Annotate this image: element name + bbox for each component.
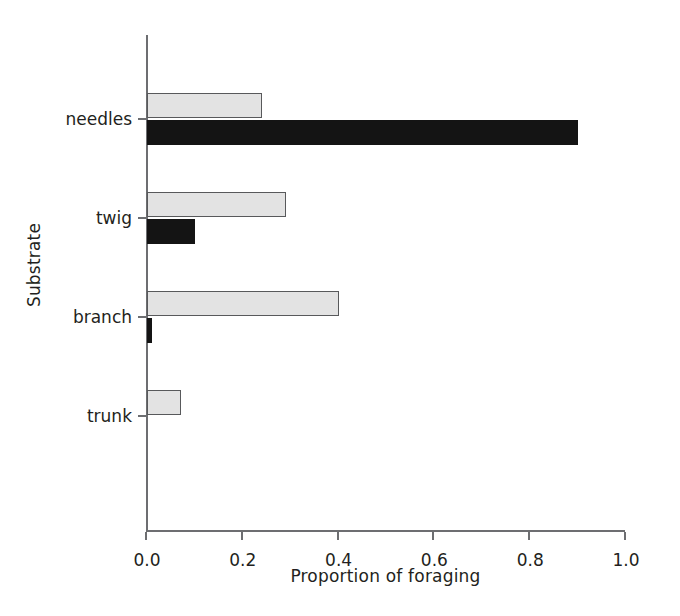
- y-axis-title: Substrate: [14, 0, 54, 530]
- bar-needles-light: [147, 93, 262, 118]
- x-axis-tick: [145, 532, 147, 540]
- x-axis-title: Proportion of foraging: [146, 566, 625, 586]
- y-axis-tick: [138, 118, 146, 120]
- bar-twig-dark: [147, 219, 195, 244]
- x-axis-tick: [432, 532, 434, 540]
- y-axis-tick-label-needles: needles: [65, 109, 132, 129]
- y-axis-tick-label-trunk: trunk: [87, 406, 132, 426]
- y-axis-tick-label-branch: branch: [73, 307, 132, 327]
- bar-branch-dark: [147, 318, 152, 343]
- x-axis-tick: [241, 532, 243, 540]
- y-axis-tick: [138, 217, 146, 219]
- plot-area: 0.00.20.40.60.81.0 needlestwigbranchtrun…: [146, 35, 625, 532]
- bar-chart-figure: Substrate 0.00.20.40.60.81.0 needlestwig…: [0, 0, 680, 616]
- x-axis-tick: [337, 532, 339, 540]
- y-axis-tick: [138, 415, 146, 417]
- y-axis-title-text: Substrate: [24, 223, 44, 307]
- x-axis-line: [146, 530, 625, 532]
- bar-twig-light: [147, 192, 286, 217]
- y-axis-tick-label-twig: twig: [96, 208, 132, 228]
- x-axis-tick: [528, 532, 530, 540]
- y-axis-tick: [138, 316, 146, 318]
- bar-needles-dark: [147, 120, 578, 145]
- bar-branch-light: [147, 291, 339, 316]
- x-axis-tick: [624, 532, 626, 540]
- bar-trunk-light: [147, 390, 181, 415]
